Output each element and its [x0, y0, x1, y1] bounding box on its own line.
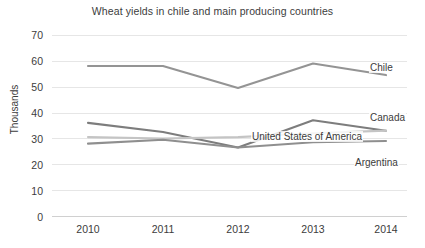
x-axis-line [52, 216, 407, 217]
series-label-usa: United States of America [251, 131, 363, 142]
y-tick-30: 30 [13, 134, 43, 145]
y-tick-10: 10 [13, 186, 43, 197]
y-tick-40: 40 [13, 108, 43, 119]
series-label-chile: Chile [369, 62, 394, 73]
chart-title: Wheat yields in chile and main producing… [0, 5, 425, 17]
y-tick-0: 0 [13, 212, 43, 223]
x-tick-2013: 2013 [283, 223, 343, 235]
series-line-chile [88, 63, 386, 88]
x-tick-2010: 2010 [58, 223, 118, 235]
y-tick-70: 70 [13, 30, 43, 41]
series-label-argentina: Argentina [354, 157, 399, 168]
series-label-canada: Canada [369, 112, 406, 123]
x-tick-2012: 2012 [208, 223, 268, 235]
x-tick-2011: 2011 [133, 223, 193, 235]
y-tick-20: 20 [13, 160, 43, 171]
x-tick-2014: 2014 [356, 223, 416, 235]
y-tick-50: 50 [13, 82, 43, 93]
y-tick-60: 60 [13, 56, 43, 67]
series-lines [52, 35, 407, 216]
line-chart: Wheat yields in chile and main producing… [0, 0, 425, 248]
